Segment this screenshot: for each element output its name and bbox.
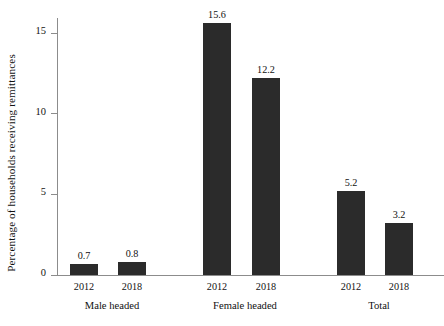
x-axis-year-label: 2018 xyxy=(105,281,159,292)
x-axis-year-label: 2012 xyxy=(324,281,378,292)
y-axis-tick-label: 0 xyxy=(0,267,46,278)
bar-value-label: 0.8 xyxy=(107,248,157,259)
y-axis-tick-label: 10 xyxy=(0,106,46,117)
x-axis-year-label: 2012 xyxy=(57,281,111,292)
x-axis-year-label: 2018 xyxy=(372,281,426,292)
y-axis-tick-label: 15 xyxy=(0,25,46,36)
bar-value-label: 3.2 xyxy=(374,209,424,220)
x-axis-group-label: Total xyxy=(319,300,439,311)
bar-value-label: 5.2 xyxy=(326,177,376,188)
x-axis-group-label: Female headed xyxy=(185,300,305,311)
bar xyxy=(252,78,280,275)
bar xyxy=(203,23,231,275)
bar-value-label: 0.7 xyxy=(59,250,109,261)
y-axis-tick-label: 5 xyxy=(0,186,46,197)
x-axis-line xyxy=(57,275,444,276)
y-axis-tick-mark xyxy=(51,113,57,114)
bar xyxy=(118,262,146,275)
y-axis-tick-mark xyxy=(51,275,57,276)
bar xyxy=(337,191,365,275)
y-axis-tick-mark xyxy=(51,33,57,34)
x-axis-group-label: Male headed xyxy=(52,300,172,311)
x-axis-year-label: 2018 xyxy=(239,281,293,292)
x-axis-year-label: 2012 xyxy=(190,281,244,292)
bar xyxy=(70,264,98,275)
bar-value-label: 15.6 xyxy=(192,9,242,20)
bar xyxy=(385,223,413,275)
bar-value-label: 12.2 xyxy=(241,64,291,75)
y-axis-line xyxy=(57,18,58,276)
y-axis-tick-mark xyxy=(51,194,57,195)
bar-chart: Percentage of households receiving remit… xyxy=(0,0,444,326)
